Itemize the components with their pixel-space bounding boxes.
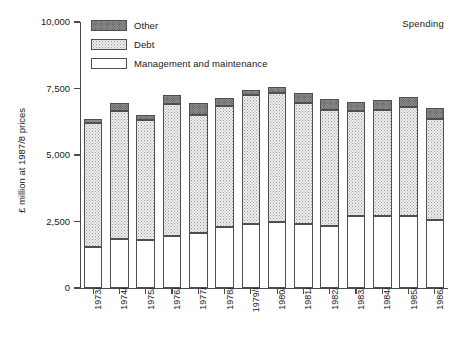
bar-segment-debt[interactable]: [399, 107, 418, 216]
bar-group[interactable]: [294, 93, 313, 289]
x-axis-tick-label: 1973/4: [87, 296, 99, 346]
bar-segment-management-and-maintenance[interactable]: [294, 224, 313, 288]
bar-group[interactable]: [215, 98, 234, 288]
bar-segment-other[interactable]: [110, 103, 129, 111]
chart-legend: OtherDebtManagement and maintenance: [91, 17, 268, 74]
bar-group[interactable]: [399, 96, 418, 288]
bar-segment-debt[interactable]: [426, 119, 445, 220]
bar-group[interactable]: [268, 87, 287, 288]
y-axis-tick-mark: [74, 221, 80, 222]
bar-group[interactable]: [426, 108, 445, 288]
bar-segment-other[interactable]: [84, 119, 103, 123]
bar-segment-debt[interactable]: [84, 123, 103, 247]
bar-segment-debt[interactable]: [373, 110, 392, 216]
x-axis-tick-label: 1979/80: [245, 296, 257, 346]
chart-corner-title: Spending: [402, 18, 444, 29]
legend-item-label: Management and maintenance: [134, 58, 268, 69]
x-axis-tick-label: 1983/4: [350, 296, 362, 346]
bar-group[interactable]: [320, 99, 339, 288]
x-axis-tick-label: 1985/6: [403, 296, 415, 346]
bar-group[interactable]: [163, 95, 182, 288]
bar-group[interactable]: [136, 115, 155, 288]
bar-segment-debt[interactable]: [347, 111, 366, 216]
bar-segment-other[interactable]: [136, 115, 155, 120]
y-axis-tick-label-text: 5,000: [0, 150, 70, 160]
bar-segment-management-and-maintenance[interactable]: [110, 239, 129, 288]
x-axis-tick-label: 1981/2: [297, 296, 309, 346]
x-axis-tick-label: 1984/5: [376, 296, 388, 346]
bar-segment-other[interactable]: [373, 100, 392, 109]
x-axis-tick-label: 1977/8: [192, 296, 204, 346]
bar-segment-management-and-maintenance[interactable]: [399, 216, 418, 288]
bar-segment-other[interactable]: [242, 90, 261, 95]
x-axis-line: [80, 288, 448, 289]
bar-segment-management-and-maintenance[interactable]: [136, 240, 155, 288]
bar-segment-debt[interactable]: [163, 104, 182, 236]
bar-group[interactable]: [84, 119, 103, 288]
y-axis-tick-mark: [74, 88, 80, 89]
x-axis-tick-label: 1986/7: [429, 296, 441, 346]
bar-segment-management-and-maintenance[interactable]: [426, 220, 445, 288]
bar-segment-other[interactable]: [163, 95, 182, 104]
bar-segment-other[interactable]: [399, 97, 418, 108]
bar-segment-other[interactable]: [189, 103, 208, 115]
bar-segment-debt[interactable]: [215, 106, 234, 227]
x-axis-tick-label: 1975/6: [140, 296, 152, 346]
bar-segment-debt[interactable]: [268, 93, 287, 222]
y-axis-tick-mark: [74, 154, 80, 155]
x-axis-tick-label: 1982/3: [324, 296, 336, 346]
bar-segment-other[interactable]: [294, 93, 313, 104]
bar-segment-debt[interactable]: [110, 111, 129, 239]
bar-segment-other[interactable]: [426, 108, 445, 119]
legend-item-label: Other: [134, 20, 158, 31]
y-axis-tick-label-text: 0: [0, 283, 70, 293]
bar-group[interactable]: [242, 90, 261, 288]
x-axis-tick-label: 1974/5: [113, 296, 125, 346]
bar-segment-management-and-maintenance[interactable]: [215, 227, 234, 288]
bar-segment-management-and-maintenance[interactable]: [189, 233, 208, 288]
bar-segment-other[interactable]: [215, 98, 234, 106]
y-axis-tick-label-text: 2,500: [0, 217, 70, 227]
legend-item[interactable]: Other: [91, 17, 268, 33]
bar-segment-management-and-maintenance[interactable]: [320, 226, 339, 289]
legend-swatch-solid-white: [91, 58, 127, 69]
legend-item[interactable]: Management and maintenance: [91, 55, 268, 71]
x-axis-tick-label: 1980/1: [271, 296, 283, 346]
bar-segment-debt[interactable]: [294, 103, 313, 224]
bar-segment-debt[interactable]: [242, 95, 261, 224]
bar-segment-management-and-maintenance[interactable]: [268, 222, 287, 289]
bar-segment-management-and-maintenance[interactable]: [347, 216, 366, 288]
bar-group[interactable]: [373, 100, 392, 288]
bar-segment-management-and-maintenance[interactable]: [242, 224, 261, 288]
x-axis-tick-label: 1976/7: [166, 296, 178, 346]
bar-segment-management-and-maintenance[interactable]: [373, 216, 392, 288]
bar-group[interactable]: [110, 103, 129, 288]
bar-segment-debt[interactable]: [136, 120, 155, 240]
bar-segment-management-and-maintenance[interactable]: [84, 247, 103, 288]
y-axis-tick-mark: [74, 21, 80, 22]
legend-swatch-dark-stipple: [91, 20, 127, 31]
legend-item-label: Debt: [134, 39, 154, 50]
y-axis-tick-mark: [74, 287, 80, 288]
bar-segment-other[interactable]: [320, 99, 339, 110]
bar-segment-other[interactable]: [268, 87, 287, 92]
x-axis-tick-label: 1978/9: [219, 296, 231, 346]
y-axis-line: [80, 22, 81, 288]
stacked-bar-chart: Spending £ million at 1987/8 prices 02,5…: [0, 0, 454, 351]
legend-item[interactable]: Debt: [91, 36, 268, 52]
bar-segment-debt[interactable]: [320, 110, 339, 226]
y-axis-tick-label-text: 10,000: [0, 17, 70, 27]
bar-segment-debt[interactable]: [189, 115, 208, 233]
bar-group[interactable]: [189, 103, 208, 288]
bar-group[interactable]: [347, 102, 366, 288]
legend-swatch-light-stipple: [91, 39, 127, 50]
bar-segment-other[interactable]: [347, 102, 366, 111]
bar-segment-management-and-maintenance[interactable]: [163, 236, 182, 288]
y-axis-tick-label-text: 7,500: [0, 84, 70, 94]
